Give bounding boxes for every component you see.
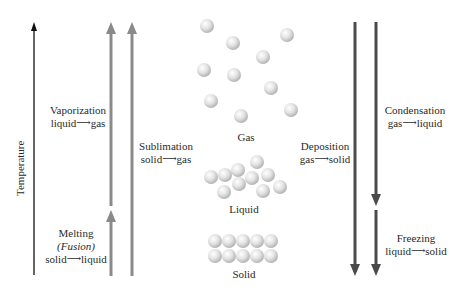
temperature-axis-label: Temperature: [14, 141, 26, 196]
phase-label-solid: Solid: [214, 268, 274, 280]
vaporization-to: gas: [91, 117, 106, 129]
condensation-from: gas: [388, 117, 403, 129]
sublimation-from: solid: [141, 153, 162, 165]
melting-label: Melting (Fusion) solid⟶liquid: [44, 227, 108, 266]
gas-particles: [197, 19, 298, 123]
phase-label-gas: Gas: [216, 131, 276, 143]
vaporization-label: Vaporization liquid⟶gas: [48, 104, 108, 130]
freezing-from: liquid: [385, 245, 411, 257]
vaporization-from: liquid: [51, 117, 77, 129]
sublimation-to: gas: [177, 153, 192, 165]
condensation-label: Condensation gas⟶liquid: [380, 104, 450, 130]
liquid-particles: [204, 155, 287, 199]
phase-label-liquid: Liquid: [214, 203, 274, 215]
deposition-to: solid: [329, 153, 350, 165]
arrow-glyph: ⟶: [76, 116, 90, 129]
deposition-label: Deposition gas⟶solid: [296, 140, 354, 166]
melting-from: solid: [45, 253, 66, 265]
arrow-glyph: ⟶: [402, 116, 416, 129]
arrow-glyph: ⟶: [67, 252, 81, 265]
sublimation-arrow: [127, 22, 137, 276]
arrow-glyph: ⟶: [162, 152, 176, 165]
arrow-glyph: ⟶: [314, 152, 328, 165]
solid-particles: [208, 234, 278, 263]
deposition-from: gas: [300, 153, 315, 165]
freezing-label: Freezing liquid⟶solid: [380, 232, 452, 258]
melting-name: Melting: [44, 227, 108, 240]
sublimation-label: Sublimation solid⟶gas: [137, 140, 195, 166]
freezing-to: solid: [425, 245, 446, 257]
temperature-axis-arrow: [31, 22, 37, 275]
condensation-to: liquid: [417, 117, 443, 129]
melting-to: liquid: [81, 253, 107, 265]
arrow-glyph: ⟶: [411, 244, 425, 257]
